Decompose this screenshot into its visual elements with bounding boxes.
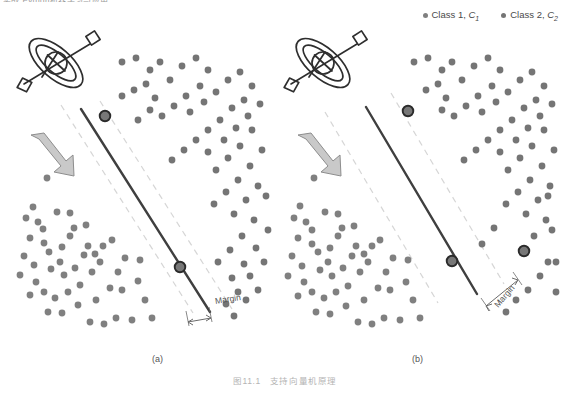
legend: Class 1, C1 Class 2, C2 (423, 9, 559, 22)
panel-a (17, 30, 272, 327)
support-vectors-a (100, 111, 186, 273)
panel-label-b: (b) (412, 354, 423, 364)
support-vector (100, 111, 111, 122)
kayak-icon-b (284, 30, 368, 96)
figure-root: 实战 Python机器学习与应用 Class 1, C1 Class 2, C2 (0, 0, 570, 395)
margin-line-b-lower (325, 112, 438, 303)
legend-dot-class-1 (423, 13, 428, 18)
legend-label-class-1: Class 1, C1 (432, 9, 480, 22)
support-vectors-b (403, 106, 530, 267)
scatter-class1-a (17, 175, 156, 328)
caption-number: 图11.1 (233, 376, 261, 386)
scatter-class1-b (285, 175, 424, 328)
panel-b (284, 30, 560, 327)
legend-item-class-1: Class 1, C1 (423, 9, 480, 22)
figure-caption: 图11.1支持向量机原理 (0, 374, 570, 386)
margin-line-b-upper (391, 93, 504, 284)
legend-label-class-2: Class 2, C2 (510, 9, 558, 22)
legend-item-class-2: Class 2, C2 (501, 9, 558, 22)
figure-canvas (0, 0, 570, 395)
decision-boundary-b (366, 107, 477, 294)
scatter-class2-b (411, 55, 560, 316)
scatter-class2-a (119, 55, 272, 320)
panel-label-a: (a) (152, 354, 163, 364)
support-vector (175, 262, 186, 273)
clipped-header-text: 实战 Python机器学习与应用 (3, 0, 109, 2)
support-vector (447, 256, 458, 267)
kayak-icon (17, 30, 101, 96)
support-vector (403, 106, 414, 117)
direction-arrow-a (31, 133, 74, 176)
support-vector (519, 246, 530, 257)
direction-arrow-b (298, 133, 341, 176)
legend-dot-class-2 (501, 13, 506, 18)
decision-boundary-a (81, 109, 210, 312)
caption-text: 支持向量机原理 (270, 376, 337, 386)
